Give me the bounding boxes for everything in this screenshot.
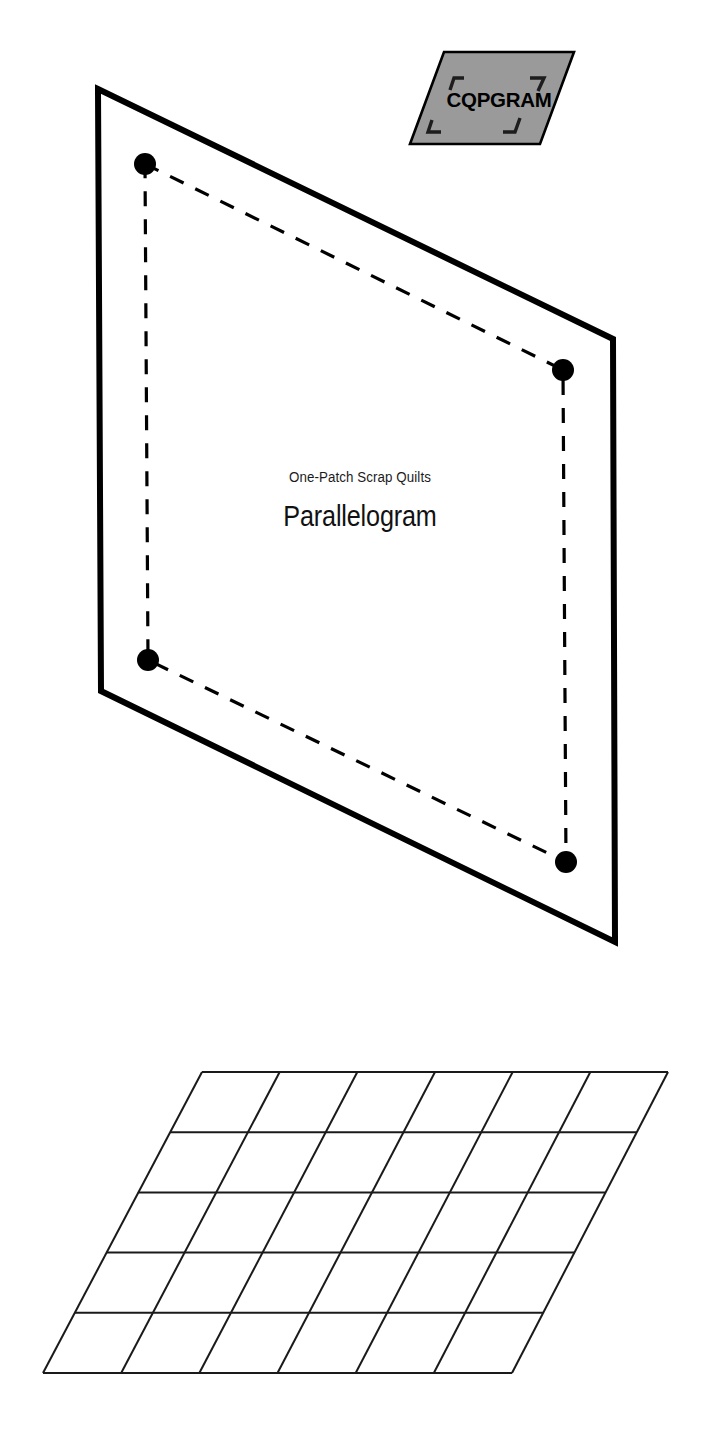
grid-column-line-4 bbox=[356, 1072, 513, 1373]
grid-edge-left bbox=[43, 1072, 202, 1373]
parallelogram-tiling-grid bbox=[0, 0, 707, 1450]
grid-column-line-2 bbox=[199, 1072, 357, 1373]
grid-column-line-1 bbox=[121, 1072, 280, 1373]
page-canvas: CQPGRAM One-Patch Scrap Quilts Parallelo… bbox=[0, 0, 707, 1450]
grid-line-group bbox=[43, 1072, 668, 1373]
grid-column-line-3 bbox=[278, 1072, 436, 1373]
grid-column-line-5 bbox=[434, 1072, 591, 1373]
grid-edge-right bbox=[512, 1072, 668, 1373]
